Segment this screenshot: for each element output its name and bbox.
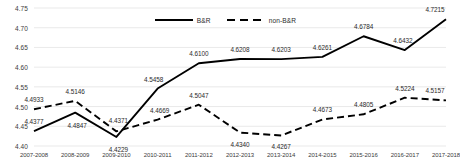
series-line-b-r (34, 19, 446, 137)
data-point-label: 4.4377 (24, 118, 43, 125)
data-point-label: 4.4340 (230, 140, 249, 147)
x-axis-tick-label: 2017-2018 (432, 152, 460, 158)
data-point-label: 4.4267 (272, 143, 291, 150)
x-axis-tick-label: 2016-2017 (391, 152, 419, 158)
data-point-label: 4.5224 (395, 84, 414, 91)
y-axis-tick-label: 4.40 (2, 143, 28, 150)
data-point-label: 4.7215 (425, 6, 444, 13)
data-point-label: 4.6203 (272, 46, 291, 53)
plot-area (34, 8, 446, 146)
plot-svg (34, 8, 446, 146)
y-axis-tick-label: 4.55 (2, 83, 28, 90)
y-axis-tick-label: 4.75 (2, 5, 28, 12)
series-lines (34, 19, 446, 137)
data-point-label: 4.4673 (313, 106, 332, 113)
y-axis-tick-label: 4.65 (2, 44, 28, 51)
data-point-label: 4.4847 (68, 121, 87, 128)
data-point-label: 4.4805 (354, 101, 373, 108)
x-axis-tick-label: 2010-2011 (144, 152, 172, 158)
x-axis-tick-label: 2012-2013 (226, 152, 254, 158)
y-axis-tick-label: 4.70 (2, 24, 28, 31)
data-point-label: 4.6100 (189, 50, 208, 57)
x-axis-tick-label: 2007-2008 (20, 152, 48, 158)
series-line-non-b-r (34, 98, 446, 136)
data-point-label: 4.5458 (144, 75, 163, 82)
data-point-label: 4.6208 (230, 45, 249, 52)
x-axis-tick-label: 2011-2012 (185, 152, 213, 158)
data-point-label: 4.5047 (189, 91, 208, 98)
x-axis-tick-label: 2014-2015 (308, 152, 336, 158)
x-axis-tick-label: 2009-2010 (102, 152, 130, 158)
data-point-label: 4.6261 (313, 43, 332, 50)
data-point-label: 4.4371 (109, 117, 128, 124)
x-axis-tick-label: 2013-2014 (267, 152, 295, 158)
data-point-label: 4.6784 (354, 23, 373, 30)
y-axis-tick-label: 4.50 (2, 103, 28, 110)
data-point-label: 4.4669 (150, 106, 169, 113)
data-point-label: 4.6432 (393, 37, 412, 44)
y-axis-tick-label: 4.60 (2, 64, 28, 71)
data-point-label: 4.5157 (425, 87, 444, 94)
x-axis-tick-label: 2015-2016 (349, 152, 377, 158)
data-point-label: 4.5146 (66, 87, 85, 94)
data-point-label: 4.4933 (24, 96, 43, 103)
x-axis-tick-label: 2008-2009 (61, 152, 89, 158)
